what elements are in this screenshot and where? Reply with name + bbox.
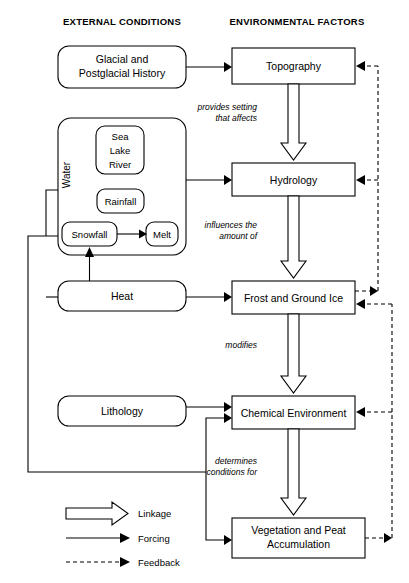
edge-label-frost-chemical-line1: modifies bbox=[225, 340, 257, 350]
linkage-chemical-to-vegetation bbox=[281, 429, 306, 515]
forcing-water-to-hydrology bbox=[186, 175, 232, 185]
node-sea-label: Sea bbox=[112, 131, 130, 142]
diagram-canvas: EXTERNAL CONDITIONS ENVIRONMENTAL FACTOR… bbox=[0, 0, 409, 583]
node-snowfall[interactable]: Snowfall bbox=[62, 222, 117, 246]
environmental-factors-flow-diagram: EXTERNAL CONDITIONS ENVIRONMENTAL FACTOR… bbox=[0, 0, 409, 583]
feedback-frost-to-topography-and-hydrology bbox=[355, 61, 378, 296]
heading-environmental-factors: ENVIRONMENTAL FACTORS bbox=[229, 16, 364, 27]
node-glacial-label-line1: Glacial and bbox=[96, 53, 149, 65]
node-glacial-label-line2: Postglacial History bbox=[79, 67, 166, 79]
forcing-heat-to-frost bbox=[186, 292, 232, 302]
water-left-stub-connectors bbox=[46, 190, 58, 297]
linkage-hydrology-to-frost bbox=[281, 196, 306, 278]
legend-label-feedback: Feedback bbox=[138, 557, 180, 568]
legend-item-feedback: Feedback bbox=[66, 557, 180, 568]
forcing-glacial-to-topography bbox=[186, 62, 232, 72]
node-frost-and-ground-ice[interactable]: Frost and Ground Ice bbox=[232, 281, 355, 314]
node-snowfall-label: Snowfall bbox=[72, 229, 108, 240]
legend-item-linkage: Linkage bbox=[66, 502, 171, 525]
legend-label-forcing: Forcing bbox=[138, 533, 170, 544]
node-melt-label: Melt bbox=[153, 229, 171, 240]
edge-label-topography-hydrology-line2: that affects bbox=[215, 113, 257, 123]
node-hydrology-label: Hydrology bbox=[270, 174, 318, 186]
node-river-label: River bbox=[109, 159, 131, 170]
node-vegetation-label-line1: Vegetation and Peat bbox=[251, 524, 346, 536]
node-vegetation-label-line2: Accumulation bbox=[267, 538, 330, 550]
node-lithology-label: Lithology bbox=[101, 405, 144, 417]
node-rainfall[interactable]: Rainfall bbox=[97, 189, 144, 213]
forcing-lithology-to-chemical bbox=[186, 402, 232, 412]
node-lake-label: Lake bbox=[110, 145, 131, 156]
node-chemical-environment[interactable]: Chemical Environment bbox=[232, 396, 355, 429]
node-glacial-postglacial-history[interactable]: Glacial and Postglacial History bbox=[58, 46, 186, 88]
node-hydrology[interactable]: Hydrology bbox=[232, 163, 355, 196]
node-heat-label: Heat bbox=[111, 290, 133, 302]
node-lithology[interactable]: Lithology bbox=[58, 396, 186, 426]
edge-label-topography-hydrology-line1: provides setting bbox=[196, 102, 257, 112]
linkage-frost-to-chemical bbox=[281, 314, 306, 393]
node-rainfall-label: Rainfall bbox=[105, 196, 137, 207]
edge-label-chemical-vegetation-line1: determines bbox=[215, 456, 258, 466]
node-topography[interactable]: Topography bbox=[232, 48, 355, 84]
node-chemical-label: Chemical Environment bbox=[241, 407, 347, 419]
node-topography-label: Topography bbox=[266, 60, 322, 72]
legend-item-forcing: Forcing bbox=[66, 533, 170, 544]
feedback-vegetation-to-chemical-and-frost bbox=[356, 299, 392, 543]
node-heat[interactable]: Heat bbox=[58, 281, 186, 311]
node-vegetation-and-peat-accumulation[interactable]: Vegetation and Peat Accumulation bbox=[232, 518, 365, 558]
linkage-topography-to-hydrology bbox=[281, 84, 306, 160]
node-frost-label: Frost and Ground Ice bbox=[244, 292, 343, 304]
node-melt[interactable]: Melt bbox=[146, 222, 178, 246]
node-sea-lake-river[interactable]: Sea Lake River bbox=[96, 126, 144, 174]
group-water-label: Water bbox=[61, 161, 72, 188]
edge-label-chemical-vegetation-line2: conditions for bbox=[206, 467, 258, 477]
legend: Linkage Forcing Feedback bbox=[66, 502, 180, 568]
heading-external-conditions: EXTERNAL CONDITIONS bbox=[63, 16, 181, 27]
edge-label-hydrology-frost-line2: amount of bbox=[219, 231, 258, 241]
edge-label-hydrology-frost-line1: influences the bbox=[205, 220, 258, 230]
legend-label-linkage: Linkage bbox=[138, 508, 171, 519]
